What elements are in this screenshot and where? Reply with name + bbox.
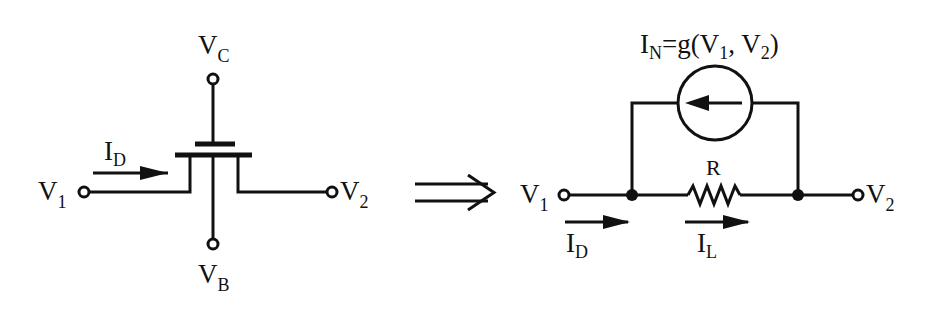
v1-terminal bbox=[559, 190, 569, 200]
label-vc: VC bbox=[198, 30, 230, 66]
source-wire-left bbox=[632, 103, 677, 195]
label-v2-left: V2 bbox=[340, 176, 369, 212]
current-source-arrowhead-icon bbox=[685, 95, 709, 111]
label-r: R bbox=[706, 155, 721, 180]
drain-wire bbox=[238, 157, 326, 192]
label-il: IL bbox=[697, 228, 717, 262]
gate-terminal bbox=[208, 74, 218, 84]
source-wire-right bbox=[752, 103, 798, 195]
id-arrowhead-icon bbox=[603, 215, 630, 229]
v2-terminal bbox=[853, 190, 863, 200]
source-terminal bbox=[79, 187, 89, 197]
label-v1-right: V1 bbox=[520, 179, 549, 215]
label-in-equation: IN=g(V1, V2) bbox=[640, 29, 779, 63]
equivalent-circuit bbox=[559, 66, 863, 229]
arrowhead-icon bbox=[140, 166, 168, 180]
il-arrowhead-icon bbox=[723, 215, 750, 229]
label-vb: VB bbox=[198, 259, 230, 295]
label-id-left: ID bbox=[104, 136, 126, 170]
label-v1-left: V1 bbox=[38, 176, 67, 212]
circuit-diagram: VC VB V1 V2 ID IN=g(V bbox=[0, 0, 932, 310]
label-v2-right: V2 bbox=[866, 179, 895, 215]
label-id-right: ID bbox=[566, 228, 588, 262]
bulk-terminal bbox=[208, 239, 218, 249]
drain-terminal bbox=[327, 187, 337, 197]
implies-arrow-icon bbox=[415, 175, 494, 210]
resistor-icon bbox=[688, 186, 740, 204]
